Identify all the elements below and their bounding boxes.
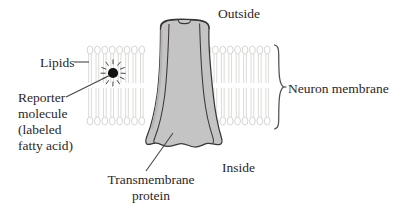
- label-outside: Outside: [218, 6, 260, 22]
- reporter-molecule-marker: [101, 59, 126, 86]
- label-lipids: Lipids: [40, 55, 75, 71]
- label-inside: Inside: [222, 160, 255, 176]
- label-reporter-line-3: (labeled: [18, 122, 114, 138]
- protein-body: [146, 19, 222, 147]
- label-transmembrane-protein: Transmembrane protein: [84, 172, 218, 204]
- label-transmembrane-line-2: protein: [84, 188, 218, 204]
- label-reporter-molecule: Reporter molecule (labeled fatty acid): [18, 90, 114, 154]
- lipid-leaflet-left-upper: [87, 46, 145, 83]
- protein-top-notch: [179, 20, 191, 24]
- label-reporter-line-1: Reporter: [18, 90, 114, 106]
- lipid-leaflet-right-upper: [205, 46, 270, 83]
- label-neuron-membrane: Neuron membrane: [288, 81, 389, 97]
- transmembrane-protein: [146, 19, 222, 147]
- label-reporter-line-2: molecule: [18, 106, 114, 122]
- brace-neuron-membrane: [275, 45, 284, 129]
- membrane-diagram: Outside Inside Neuron membrane Lipids Re…: [0, 0, 419, 213]
- label-reporter-line-4: fatty acid): [18, 138, 114, 154]
- label-transmembrane-line-1: Transmembrane: [84, 172, 218, 188]
- reporter-dot: [108, 68, 118, 78]
